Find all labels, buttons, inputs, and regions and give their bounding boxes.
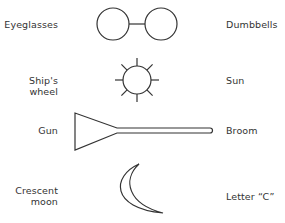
sun-wheel-icon [115, 58, 159, 102]
crescent-moon-icon [120, 164, 163, 213]
broom-gun-icon [75, 113, 213, 150]
eyeglasses-dumbbell-icon [97, 8, 177, 40]
figure-shapes [0, 0, 285, 223]
